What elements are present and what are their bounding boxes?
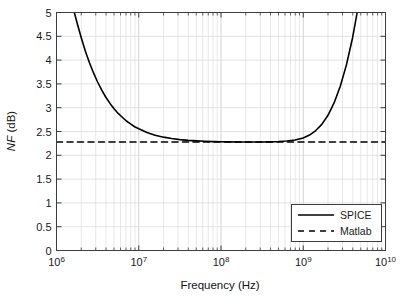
legend-label-matlab: Matlab <box>340 225 372 237</box>
y-tick-label: 4 <box>45 54 51 66</box>
y-tick-label: 4.5 <box>36 30 51 42</box>
legend[interactable]: SPICE Matlab <box>292 205 382 242</box>
y-tick-label: 3 <box>45 102 51 114</box>
x-axis-title-text: Frequency (Hz) <box>180 279 259 291</box>
y-tick-label: 1 <box>45 197 51 209</box>
y-tick-label: 0.5 <box>36 221 51 233</box>
y-tick-label: 0 <box>45 245 51 257</box>
y-axis-title: NF (dB) <box>5 111 17 151</box>
legend-label-spice: SPICE <box>340 209 372 221</box>
noise-figure-plot: 1061071081091010 00.511.522.533.544.55 F… <box>0 0 408 304</box>
y-axis-title-text: NF (dB) <box>5 111 17 151</box>
y-tick-label: 2 <box>45 149 51 161</box>
y-tick-label: 3.5 <box>36 78 51 90</box>
x-axis-title: Frequency (Hz) <box>180 279 259 291</box>
y-axis-title-italic: NF <box>5 135 17 151</box>
y-axis-title-rest: (dB) <box>5 111 17 136</box>
figure-container: 1061071081091010 00.511.522.533.544.55 F… <box>0 0 408 304</box>
y-tick-label: 1.5 <box>36 173 51 185</box>
y-tick-label: 5 <box>45 7 51 19</box>
y-tick-label: 2.5 <box>36 126 51 138</box>
